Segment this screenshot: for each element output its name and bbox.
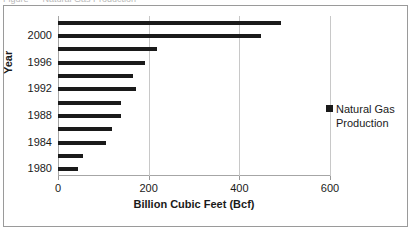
y-axis-tick-label: 2000 [28,29,52,41]
bar [58,167,78,171]
chart-legend: Natural Gas Production [326,102,408,130]
bar [58,74,133,78]
bar [58,101,121,105]
y-axis-tick-label: 1980 [28,162,52,174]
bar [58,87,136,91]
bar-row [58,16,281,29]
y-axis-tick-label: 1992 [28,82,52,94]
bar-row [58,96,121,109]
y-axis-tick-label: 1996 [28,56,52,68]
bar [58,47,157,51]
bar-row [58,109,121,122]
clipped-caption-label: Figure — Natural Gas Production [0,0,411,4]
bar-row [58,163,78,176]
y-axis-tick-labels: 200019961992198819841980 [4,16,52,176]
legend-item: Natural Gas Production [326,102,408,130]
bar [58,61,145,65]
bar [58,114,121,118]
bar [58,154,83,158]
bar-row [58,83,136,96]
bar-row [58,149,83,162]
square-marker-icon [326,105,333,112]
bar-row [58,136,106,149]
bar-row [58,56,145,69]
gridline [330,16,331,176]
y-axis-title: Year [2,51,14,74]
y-axis-tick-label: 1984 [28,136,52,148]
bar [58,34,261,38]
chart-frame: 0200400600 200019961992198819841980 Bill… [3,5,408,227]
plot-area [58,16,330,176]
x-axis-line [58,175,331,176]
bar-row [58,123,112,136]
bar-row [58,69,133,82]
x-axis-tick-label: 400 [230,182,248,194]
chart-screenshot: Figure — Natural Gas Production 02004006… [0,0,411,231]
x-axis-tick [149,176,150,180]
x-axis-tick [239,176,240,180]
bar [58,21,281,25]
bar-row [58,43,157,56]
bar [58,127,112,131]
x-axis-tick-label: 0 [55,182,61,194]
y-axis-tick-label: 1988 [28,109,52,121]
x-axis-tick [58,176,59,180]
legend-item-label: Natural Gas Production [336,102,408,130]
x-axis-tick-label: 600 [321,182,339,194]
bar [58,141,106,145]
bar-row [58,29,261,42]
x-axis-tick [330,176,331,180]
x-axis-title: Billion Cubic Feet (Bcf) [58,198,330,210]
x-axis-tick-label: 200 [139,182,157,194]
